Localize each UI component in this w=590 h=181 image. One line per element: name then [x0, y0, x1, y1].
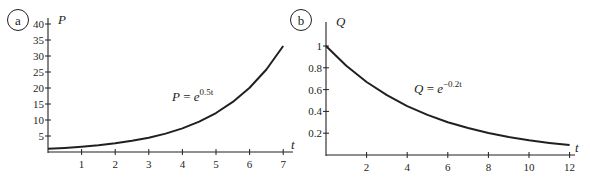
equation-label: Q = e−0.2t — [414, 79, 462, 96]
y-axis-title: P — [57, 12, 66, 27]
chart-panel-a: a1234567510152025303540PtP = e0.5t — [8, 10, 296, 171]
x-axis-title: t — [575, 140, 579, 155]
x-tick-label: 12 — [564, 161, 575, 173]
y-tick-label: 15 — [33, 98, 45, 110]
panel-label: b — [298, 13, 305, 28]
x-tick-label: 5 — [213, 158, 219, 170]
y-tick-label: 0.8 — [308, 62, 322, 74]
curve-line — [48, 46, 283, 149]
x-tick-label: 1 — [79, 158, 85, 170]
equation-label: P = e0.5t — [171, 87, 214, 104]
x-tick-label: 4 — [180, 158, 186, 170]
y-tick-label: 20 — [33, 82, 45, 94]
x-tick-label: 6 — [445, 161, 451, 173]
panel-label-badge: a — [8, 10, 29, 31]
x-axis-title: t — [291, 137, 295, 152]
curve-line — [326, 46, 570, 145]
y-tick-label: 0.6 — [308, 84, 322, 96]
y-axis-title: Q — [336, 14, 346, 29]
y-tick-label: 25 — [33, 66, 45, 78]
panel-label: a — [15, 13, 21, 28]
x-tick-label: 2 — [112, 158, 118, 170]
y-tick-label: 30 — [33, 50, 45, 62]
y-tick-label: 0.4 — [308, 105, 322, 117]
chart-panel-b: b246810120.20.40.60.81QtQ = e−0.2t — [291, 10, 580, 174]
x-tick-label: 6 — [247, 158, 253, 170]
y-tick-label: 10 — [33, 114, 45, 126]
y-tick-label: 5 — [39, 130, 45, 142]
y-tick-label: 35 — [33, 34, 45, 46]
panel-label-badge: b — [291, 10, 312, 31]
chart-figure: a1234567510152025303540PtP = e0.5tb24681… — [0, 0, 590, 181]
y-tick-label: 0.2 — [308, 127, 322, 139]
x-tick-label: 8 — [486, 161, 492, 173]
x-tick-label: 2 — [364, 161, 370, 173]
x-tick-label: 3 — [146, 158, 152, 170]
x-tick-label: 7 — [280, 158, 286, 170]
x-tick-label: 10 — [524, 161, 536, 173]
x-tick-label: 4 — [404, 161, 410, 173]
y-tick-label: 40 — [33, 18, 45, 30]
y-tick-label: 1 — [317, 40, 323, 52]
